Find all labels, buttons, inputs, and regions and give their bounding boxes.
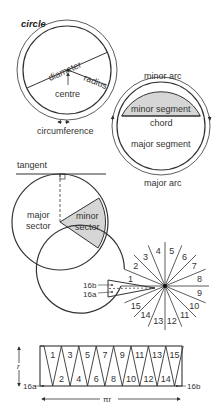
circle-basics: circle diameter radius centre circumfere…: [17, 18, 117, 136]
sector-number: 6: [182, 252, 187, 262]
chord-label: chord: [150, 118, 173, 128]
dot-16a: [42, 385, 44, 387]
centre-label: centre: [55, 89, 80, 99]
sector-number: 2: [133, 261, 138, 271]
sector-number: 8: [197, 274, 202, 284]
sector-divider: [134, 255, 165, 286]
sector-number: 14: [140, 310, 150, 320]
label-16a: 16a: [23, 382, 37, 391]
label-16b: 16b: [187, 382, 201, 391]
sector-number: 4: [156, 246, 161, 256]
rearranged-rectangle: 135791113152468101214r16a16bπr: [17, 346, 201, 404]
arc-arrow-right: [210, 116, 211, 120]
bottom-triangle-number: 4: [76, 374, 81, 384]
bottom-triangle-number: 6: [94, 374, 99, 384]
diameter-label: diameter: [47, 59, 83, 82]
width-label: πr: [103, 395, 112, 404]
bottom-triangle-number: 8: [111, 374, 116, 384]
sector-number: 15: [131, 301, 141, 311]
title: circle: [21, 18, 47, 29]
sector-number: 9: [197, 288, 202, 298]
top-triangle-number: 9: [120, 350, 125, 360]
minor-sector-label-2: sector: [75, 222, 100, 232]
top-triangle-number: 15: [169, 350, 179, 360]
sector-number: 5: [169, 246, 174, 256]
height-label: r: [17, 362, 20, 371]
sector-number: 1: [128, 274, 133, 284]
tangent-label: tangent: [17, 160, 48, 170]
sector-number: 11: [180, 310, 189, 320]
sectors-diagram: tangent major sector minor sector: [12, 160, 108, 270]
radius-label: radius: [82, 73, 109, 92]
circle-diagram: circle diameter radius centre circumfere…: [0, 0, 222, 408]
top-triangle-number: 13: [152, 350, 162, 360]
sector-number: 12: [167, 316, 177, 326]
divided-centre-dot: [163, 284, 167, 288]
bottom-triangle-number: 2: [59, 374, 64, 384]
top-triangle-number: 1: [50, 350, 55, 360]
sector-number: 7: [192, 261, 197, 271]
circumference-label: circumference: [37, 126, 94, 136]
bottom-triangle-number: 14: [161, 374, 171, 384]
bottom-triangle-number: 10: [126, 374, 136, 384]
sector-number: 3: [143, 252, 148, 262]
major-arc-label: major arc: [144, 178, 182, 188]
major-sector-label-1: major: [27, 210, 50, 220]
divided-circle: 12345678910111213141516b16a: [36, 225, 209, 330]
leader-16a: [98, 292, 111, 293]
major-segment-label: major segment: [131, 139, 191, 149]
minor-sector-label-1: minor: [76, 211, 99, 221]
major-sector-label-2: sector: [26, 221, 51, 231]
label-16a: 16a: [83, 290, 97, 299]
top-triangle-number: 3: [68, 350, 73, 360]
bottom-triangle-number: 12: [143, 374, 153, 384]
arc-arrow-left: [113, 116, 114, 120]
top-triangle-number: 5: [85, 350, 90, 360]
top-triangle-number: 11: [135, 350, 144, 360]
sector-number: 10: [189, 301, 199, 311]
dot-16a: [111, 291, 113, 293]
dot-16b: [176, 385, 178, 387]
sector-16-split-line: [108, 288, 155, 289]
minor-segment-label: minor segment: [131, 104, 191, 114]
top-triangle-number: 7: [102, 350, 107, 360]
sector-number: 13: [153, 316, 163, 326]
dot-16b: [111, 284, 113, 286]
segments-diagram: minor arc minor segment chord major segm…: [112, 71, 210, 188]
label-16b: 16b: [83, 281, 97, 290]
